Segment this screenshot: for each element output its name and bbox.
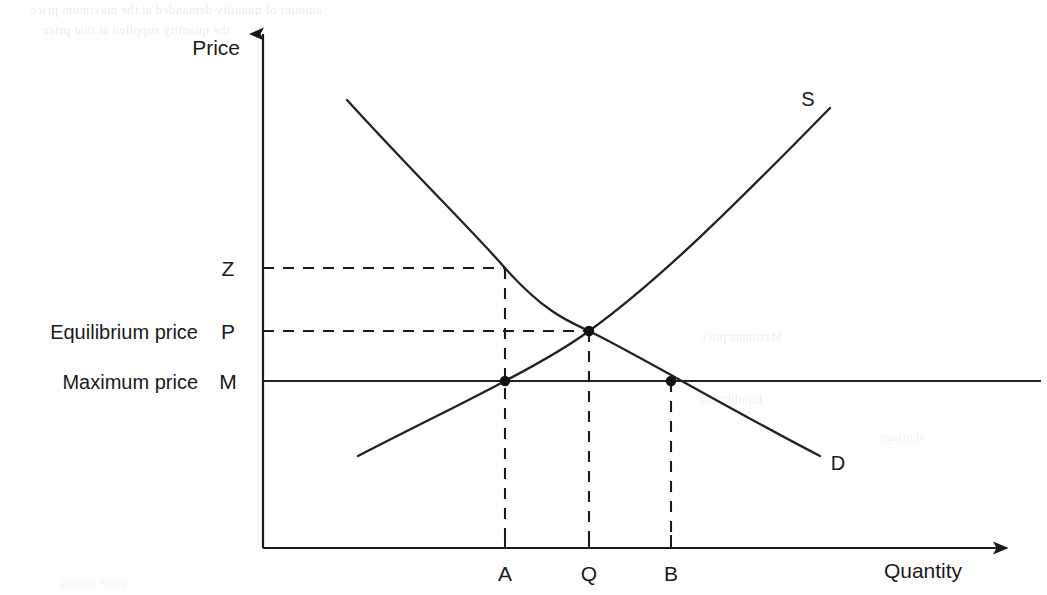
curves-group — [347, 100, 830, 456]
quantity-label-a: A — [498, 562, 512, 585]
supply-curve-label: S — [801, 88, 814, 110]
equilibrium-price-description: Equilibrium price — [50, 321, 198, 343]
supply-demand-diagram: Price Quantity S D — [0, 0, 1047, 595]
diagram-page: amount of quantity demanded at the maxim… — [0, 0, 1047, 595]
price-label-m: M — [219, 370, 237, 393]
supply-at-max-price-point — [500, 376, 510, 386]
x-axis-title: Quantity — [884, 559, 963, 582]
axes-group — [263, 34, 1007, 548]
demand-curve — [347, 100, 820, 456]
quantity-label-q: Q — [581, 562, 597, 585]
quantity-label-b: B — [664, 562, 678, 585]
supply-curve — [358, 108, 830, 456]
quantity-ticks-group — [505, 535, 671, 548]
quantity-labels-group: A Q B — [498, 562, 678, 585]
reference-lines-group — [263, 268, 671, 548]
price-labels-group: Z P Equilibrium price M Maximum price — [50, 257, 237, 393]
demand-at-max-price-point — [666, 376, 676, 386]
price-label-p: P — [221, 320, 235, 343]
price-label-z: Z — [222, 257, 235, 280]
y-axis-title: Price — [192, 36, 240, 59]
equilibrium-point — [584, 326, 594, 336]
maximum-price-description: Maximum price — [62, 371, 198, 393]
demand-curve-label: D — [831, 452, 845, 474]
